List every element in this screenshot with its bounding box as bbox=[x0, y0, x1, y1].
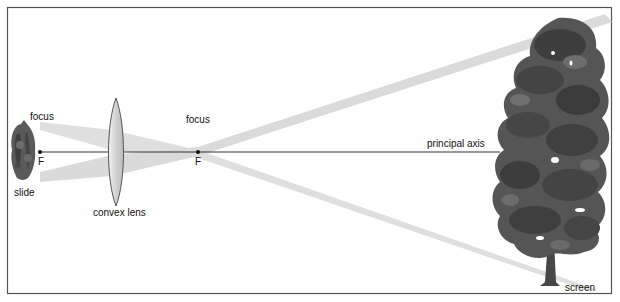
focus-label-right: focus bbox=[186, 115, 210, 125]
focal-point-right bbox=[196, 150, 200, 154]
slide-image bbox=[11, 120, 35, 180]
tree-image bbox=[493, 18, 610, 286]
focus-label-left: focus bbox=[30, 112, 54, 122]
convex-lens bbox=[109, 98, 124, 206]
screen-label: screen bbox=[565, 283, 595, 293]
focal-point-label-left: F bbox=[38, 157, 44, 167]
focal-point-label-right: F bbox=[195, 157, 201, 167]
projector-diagram bbox=[0, 0, 620, 302]
focal-point-left bbox=[38, 150, 42, 154]
principal-axis-label: principal axis bbox=[427, 139, 485, 149]
convex-lens-label: convex lens bbox=[93, 208, 146, 218]
slide-label: slide bbox=[14, 188, 35, 198]
